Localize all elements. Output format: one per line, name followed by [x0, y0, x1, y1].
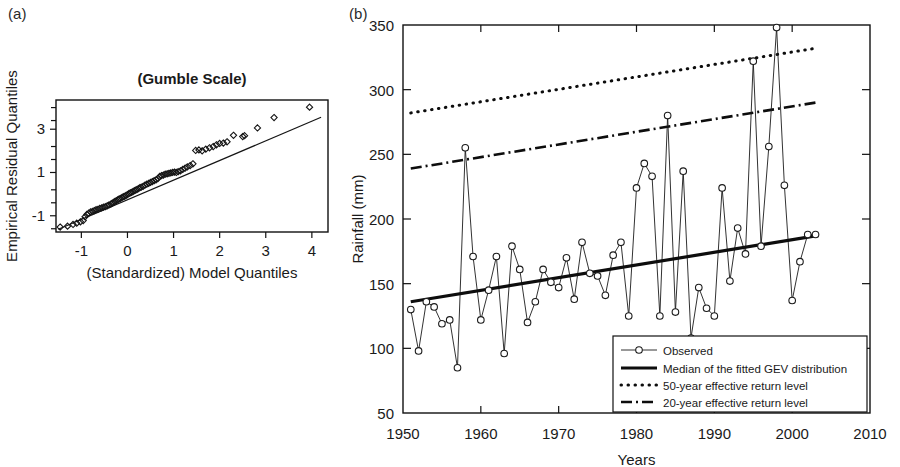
observed-data-point	[540, 266, 547, 273]
rainfall-timeseries-svg: 1950196019701980199020002010501001502002…	[345, 0, 900, 467]
qq-x-tick-label: 3	[262, 242, 270, 259]
qq-x-axis-title: (Standardized) Model Quantiles	[87, 264, 298, 281]
legend-item-label: 20-year effective return level	[663, 397, 808, 409]
observed-data-point	[695, 284, 702, 291]
observed-data-point	[766, 143, 773, 150]
qq-y-tick-label: -1	[32, 207, 45, 224]
rainfall-x-tick-label: 2000	[775, 425, 808, 442]
rainfall-x-tick-label: 1950	[386, 425, 419, 442]
qq-data-point	[271, 114, 277, 120]
observed-data-point	[516, 266, 523, 273]
observed-data-point	[719, 185, 726, 192]
observed-data-point	[711, 313, 718, 320]
observed-data-point	[789, 297, 796, 304]
observed-data-point	[548, 279, 555, 286]
qq-y-axis-title: Empirical Residual Quantiles	[3, 70, 20, 262]
legend-item-label: 50-year effective return level	[663, 380, 808, 392]
gev-median-line	[411, 236, 816, 302]
qq-y-tick-label: 1	[37, 163, 45, 180]
observed-data-point	[462, 145, 469, 152]
observed-data-point	[493, 253, 500, 260]
panel-b-timeseries: (b) 195019601970198019902000201050100150…	[345, 0, 900, 467]
observed-data-point	[781, 182, 788, 189]
observed-data-point	[734, 225, 741, 232]
legend-item-label: Observed	[663, 345, 713, 357]
observed-data-point	[633, 185, 640, 192]
qq-x-tick-label: 2	[215, 242, 223, 259]
observed-data-point	[680, 168, 687, 175]
qq-data-point	[230, 132, 236, 138]
observed-data-point	[524, 319, 531, 326]
observed-data-point	[431, 304, 438, 311]
rainfall-x-axis-title: Years	[618, 451, 656, 467]
qq-x-tick-label: 4	[308, 242, 316, 259]
rainfall-x-tick-label: 1990	[698, 425, 731, 442]
rainfall-y-tick-label: 200	[369, 211, 394, 228]
observed-data-point	[758, 243, 765, 250]
panel-a-qq-plot: (a) (Gumble Scale)-101234-113(Standardiz…	[0, 0, 345, 467]
rainfall-y-tick-label: 300	[369, 82, 394, 99]
observed-data-point	[439, 320, 446, 327]
observed-data-point	[579, 239, 586, 246]
rainfall-x-tick-label: 1970	[542, 425, 575, 442]
qq-y-tick-label: 3	[37, 120, 45, 137]
observed-data-point	[750, 58, 757, 65]
observed-data-point	[672, 309, 679, 316]
rainfall-y-tick-label: 350	[369, 17, 394, 34]
observed-data-point	[703, 305, 710, 312]
qq-point-group	[57, 104, 313, 230]
observed-data-point	[625, 313, 632, 320]
figure-container: (a) (Gumble Scale)-101234-113(Standardiz…	[0, 0, 900, 467]
rainfall-x-tick-label: 2010	[853, 425, 886, 442]
observed-data-point	[602, 292, 609, 299]
observed-data-point	[641, 160, 648, 167]
observed-data-point	[657, 313, 664, 320]
observed-data-point	[618, 239, 625, 246]
qq-plot-svg: (Gumble Scale)-101234-113(Standardized) …	[0, 0, 345, 310]
observed-data-point	[423, 298, 430, 305]
observed-data-point	[563, 254, 570, 261]
legend-marker-observed	[636, 347, 643, 354]
observed-data-point	[649, 173, 656, 180]
return-level-20yr-line	[411, 103, 816, 169]
legend-item-label: Median of the fitted GEV distribution	[663, 363, 847, 375]
rainfall-y-tick-label: 50	[377, 405, 394, 422]
observed-data-point	[594, 273, 601, 280]
observed-data-point	[812, 231, 819, 238]
rainfall-y-tick-label: 100	[369, 340, 394, 357]
observed-data-point	[501, 350, 508, 357]
rainfall-y-axis-title: Rainfall (mm)	[349, 174, 366, 263]
rainfall-y-tick-label: 250	[369, 146, 394, 163]
rainfall-y-tick-label: 150	[369, 276, 394, 293]
observed-data-point	[727, 278, 734, 285]
qq-x-tick-label: 1	[169, 242, 177, 259]
qq-plot-title: (Gumble Scale)	[137, 70, 246, 87]
observed-data-point	[664, 112, 671, 119]
observed-data-point	[773, 24, 780, 31]
observed-data-point	[555, 284, 562, 291]
observed-data-point	[454, 364, 461, 371]
qq-x-tick-label: -1	[75, 242, 88, 259]
observed-data-point	[509, 243, 516, 250]
observed-data-point	[470, 253, 477, 260]
observed-data-point	[532, 298, 539, 305]
qq-data-point	[306, 104, 312, 110]
observed-data-point	[478, 317, 485, 324]
observed-series-line	[411, 28, 816, 368]
qq-x-tick-label: 0	[123, 242, 131, 259]
rainfall-x-tick-label: 1960	[464, 425, 497, 442]
observed-data-point	[742, 251, 749, 258]
observed-data-point	[610, 252, 617, 259]
observed-data-point	[485, 287, 492, 294]
observed-data-point	[587, 270, 594, 277]
observed-data-point	[571, 296, 578, 303]
rainfall-x-tick-label: 1980	[620, 425, 653, 442]
observed-data-point	[804, 231, 811, 238]
observed-data-point	[407, 306, 414, 313]
observed-data-point	[446, 317, 453, 324]
qq-data-point	[254, 125, 260, 131]
observed-data-point	[415, 348, 422, 355]
rainfall-legend: ObservedMedian of the fitted GEV distrib…	[613, 336, 867, 412]
observed-data-point	[797, 258, 804, 265]
